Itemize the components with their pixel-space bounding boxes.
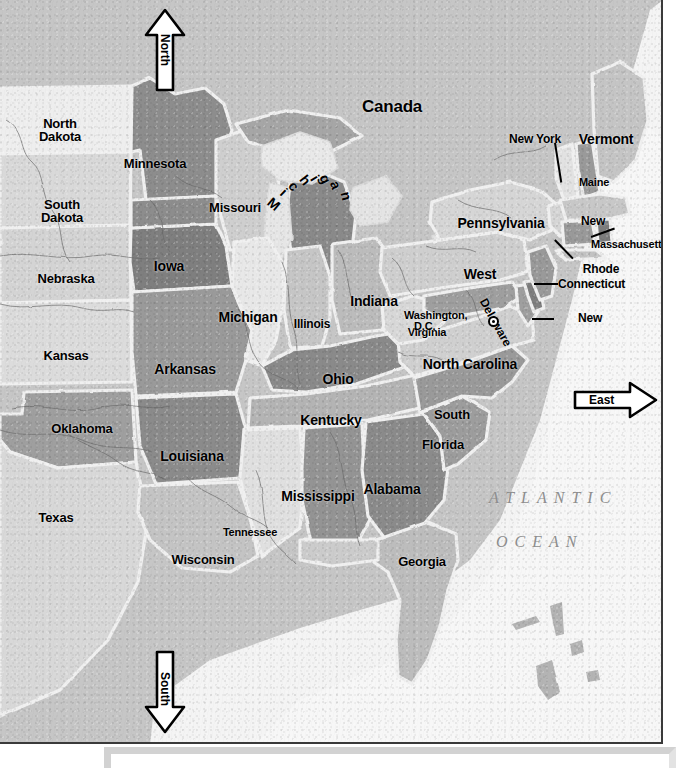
state-label-nebraska: Nebraska bbox=[38, 272, 95, 285]
east-arrow-icon bbox=[573, 381, 658, 419]
state-label-florida: Georgia bbox=[398, 555, 446, 568]
state-label-iowa: Iowa bbox=[154, 259, 184, 273]
state-label-michigan: M i c h i g a n bbox=[268, 148, 364, 238]
state-label-delaware: New bbox=[578, 312, 602, 324]
state-label-indiana: Illinois bbox=[294, 318, 330, 330]
state-label-massachusetts: New bbox=[581, 215, 605, 227]
compass-arrow-north: North bbox=[144, 8, 186, 92]
compass-arrow-south: South bbox=[144, 650, 186, 734]
state-label-new-york: Pennsylvania bbox=[457, 216, 544, 230]
state-label-alabama: Mississippi bbox=[281, 489, 354, 503]
ocean-label-line2: OCEAN bbox=[496, 533, 583, 551]
state-label-virginia: North Carolina bbox=[423, 357, 517, 371]
state-label-texas: Texas bbox=[39, 511, 74, 524]
state-label-louisiana: Wisconsin bbox=[171, 553, 234, 566]
state-label-wisconsin: Missouri bbox=[209, 201, 261, 214]
capital-label-washington-dc: Washington, D.C. bbox=[404, 310, 467, 332]
capital-star-icon bbox=[488, 316, 499, 327]
state-label-oklahoma: Oklahoma bbox=[51, 422, 112, 435]
state-label-pennsylvania: West bbox=[464, 267, 496, 281]
state-label-minnesota: Minnesota bbox=[124, 157, 186, 170]
map-canvas[interactable]: Canada North Dakota South Dakota Nebrask… bbox=[0, 0, 663, 744]
state-label-north-carolina: South bbox=[434, 408, 470, 421]
state-label-tennessee: Kentucky bbox=[300, 413, 361, 427]
state-label-georgia: Alabama bbox=[364, 482, 421, 496]
state-label-kentucky: Ohio bbox=[322, 372, 353, 386]
state-label-south-dakota: South Dakota bbox=[22, 198, 102, 225]
leader-line-delaware bbox=[532, 318, 554, 320]
bottom-panel[interactable] bbox=[104, 747, 676, 768]
compass-label-south: South bbox=[158, 672, 172, 706]
ocean-label-line1: ATLANTIC bbox=[489, 489, 617, 507]
compass-arrow-east: East bbox=[573, 381, 658, 419]
state-label-south-carolina: Florida bbox=[398, 438, 488, 451]
map-page: Canada North Dakota South Dakota Nebrask… bbox=[0, 0, 685, 768]
state-label-missouri: Arkansas bbox=[154, 362, 215, 376]
state-label-mississippi: Tennessee bbox=[223, 527, 277, 538]
state-label-new-hampshire: Maine bbox=[559, 177, 629, 188]
state-label-maine: Vermont bbox=[579, 132, 634, 146]
compass-label-east: East bbox=[589, 393, 614, 407]
state-label-new-jersey: Connecticut bbox=[558, 278, 610, 290]
state-label-kansas: Kansas bbox=[43, 349, 88, 362]
leader-line-new-jersey bbox=[534, 283, 558, 285]
state-label-ohio: Indiana bbox=[350, 294, 398, 308]
state-label-arkansas: Louisiana bbox=[160, 449, 224, 463]
compass-label-north: North bbox=[158, 34, 172, 66]
country-label-canada: Canada bbox=[362, 98, 422, 115]
state-label-rhode-island: Massachusetts bbox=[591, 239, 653, 250]
state-label-connecticut: Rhode bbox=[583, 263, 619, 275]
state-label-north-dakota: North Dakota bbox=[20, 117, 100, 144]
bottom-panel-content bbox=[111, 754, 669, 768]
state-label-illinois: Michigan bbox=[218, 310, 277, 324]
